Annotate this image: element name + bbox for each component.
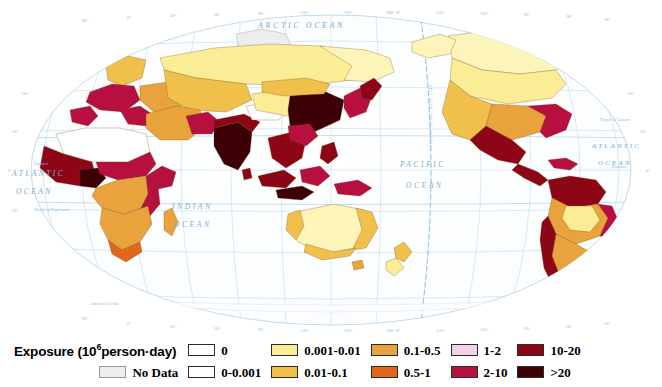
legend-item-9[interactable]: >20 [517, 366, 590, 379]
legend-label-5: 0-0.001 [221, 366, 261, 379]
legend-swatch-5 [188, 366, 215, 378]
legend-item-5[interactable]: 0-0.001 [188, 366, 271, 379]
lat-tick-left-30s: 30° [12, 208, 19, 213]
legend-item-7[interactable]: 0.5-1 [371, 366, 451, 379]
lat-tick-right-30: 30° [640, 129, 647, 134]
legend-item-4[interactable]: 10-20 [517, 344, 590, 357]
lon-tick-bot-1: 0° [127, 321, 131, 326]
lon-tick-top-3: 60° [214, 12, 221, 17]
region-tasmania [352, 260, 364, 270]
legend-title-prefix: Exposure (10 [14, 343, 96, 358]
lat-tick-left-30: 30° [12, 129, 19, 134]
lat-tick-right-60: 60° [628, 91, 635, 96]
region-sri-lanka [242, 168, 252, 180]
legend-item-6[interactable]: 0.01-0.1 [271, 366, 370, 379]
label-tropic-capricorn: Tropic of Capricorn [34, 207, 70, 212]
legend-item-3[interactable]: 1-2 [451, 344, 518, 357]
legend-item-8[interactable]: 2-10 [451, 366, 518, 379]
legend-swatch-3 [451, 344, 478, 356]
lat-tick-left-60: 60° [22, 91, 29, 96]
lat-tick-right-0: 0° [646, 168, 650, 173]
legend-item-nodata[interactable]: No Data [14, 366, 188, 379]
legend-label-7: 0.5-1 [404, 366, 431, 379]
lon-tick-top-7: 180° W [386, 10, 401, 15]
lon-tick-top-9: 120° [480, 11, 489, 16]
legend-swatch-8 [451, 366, 478, 378]
lon-tick-bot-11: 60° [566, 324, 573, 329]
legend-swatch-2 [371, 344, 398, 356]
lon-tick-bot-0: 90° [82, 316, 89, 321]
lon-tick-bot-3: 60° [214, 326, 221, 331]
label-tropic-cancer: Tropic of Cancer [600, 117, 630, 122]
legend-label-1: 0.001-0.01 [304, 344, 360, 357]
legend-swatch-1 [271, 344, 298, 356]
legend-swatch-0 [188, 344, 215, 356]
legend-label-2: 0.1-0.5 [404, 344, 441, 357]
lon-tick-top-1: 0° [127, 15, 131, 20]
figure-root: 90° 0° 30° 60° 90° 120° 150° 180° W 150°… [0, 0, 662, 387]
legend-swatch-6 [271, 366, 298, 378]
lon-tick-top-2: 30° [170, 13, 177, 18]
lon-tick-bot-4: 90° [258, 327, 265, 332]
map-legend: Exposure (106person·day) 0 0.001-0.01 0.… [0, 336, 662, 387]
legend-item-0[interactable]: 0 [188, 344, 271, 357]
ocean-label-atlantic-e1: ATLANTIC [591, 142, 641, 150]
ocean-label-atlantic-w2: OCEAN [16, 187, 53, 196]
lon-tick-bot-9: 120° [480, 327, 489, 332]
legend-item-1[interactable]: 0.001-0.01 [271, 344, 370, 357]
legend-label-3: 1-2 [484, 344, 501, 357]
lon-tick-top-6: 150° [344, 10, 353, 15]
world-map-svg: 90° 0° 30° 60° 90° 120° 150° 180° W 150°… [0, 0, 662, 340]
svg-text:INTERNATIONAL DATE LINE: INTERNATIONAL DATE LINE [429, 84, 433, 150]
legend-title-suffix: person·day) [101, 343, 176, 358]
lon-tick-top-12: 30° [604, 17, 611, 22]
ocean-label-arctic: ARCTIC OCEAN [257, 21, 345, 30]
legend-title: Exposure (106person·day) [14, 342, 188, 359]
lon-tick-bot-5: 120° [300, 328, 309, 333]
legend-swatch-7 [371, 366, 398, 378]
ocean-label-pacific-2: OCEAN [406, 181, 444, 190]
region-argentina-east [580, 252, 598, 290]
legend-label-8: 2-10 [484, 366, 508, 379]
legend-swatch-9 [517, 366, 544, 378]
lon-tick-top-0: 90° [82, 18, 89, 23]
legend-label-6: 0.01-0.1 [304, 366, 347, 379]
legend-grid: Exposure (106person·day) 0 0.001-0.01 0.… [14, 339, 591, 383]
ocean-label-atlantic-w1: ATLANTIC [11, 169, 65, 178]
lon-tick-top-8: 150° [436, 10, 445, 15]
lon-tick-top-11: 60° [566, 14, 573, 19]
legend-swatch-4 [517, 344, 544, 356]
lon-tick-bot-7: 180° W [386, 328, 401, 333]
legend-label-nodata: No Data [132, 366, 178, 379]
lon-tick-bot-12: 30° [604, 321, 611, 326]
lon-tick-bot-8: 150° [436, 328, 445, 333]
legend-label-0: 0 [221, 344, 228, 357]
lon-tick-bot-6: 150° [344, 328, 353, 333]
ocean-label-indian-1: INDIAN [171, 202, 213, 211]
label-antarctic-circle: Antarctic Circle [89, 301, 118, 306]
legend-label-4: 10-20 [550, 344, 580, 357]
legend-item-2[interactable]: 0.1-0.5 [371, 344, 451, 357]
legend-label-9: >20 [550, 366, 570, 379]
date-line-label: INTERNATIONAL DATE LINE [429, 84, 433, 150]
world-map: 90° 0° 30° 60° 90° 120° 150° 180° W 150°… [0, 0, 662, 340]
lon-tick-top-4: 90° [258, 11, 265, 16]
label-equator-west: Equator [33, 161, 49, 166]
lon-tick-bot-10: 90° [524, 326, 531, 331]
lon-tick-top-5: 120° [300, 10, 309, 15]
lon-tick-top-10: 90° [524, 12, 531, 17]
lon-tick-bot-2: 30° [170, 324, 177, 329]
ocean-label-indian-2: OCEAN [174, 220, 212, 229]
legend-swatch-nodata [99, 366, 126, 378]
ocean-label-pacific-1: PACIFIC [399, 160, 446, 169]
label-equator-east: Equator [611, 164, 627, 169]
